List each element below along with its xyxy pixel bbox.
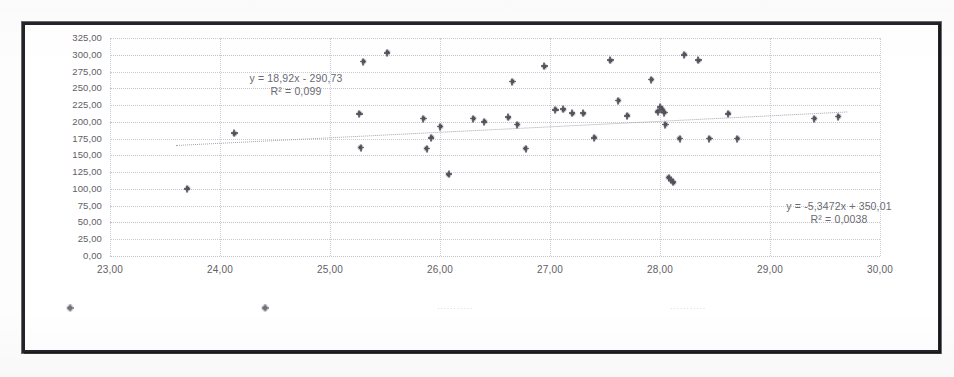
legend-text-2: ··········· bbox=[670, 304, 706, 313]
legend-text-1: ··········· bbox=[437, 304, 473, 313]
chart-legend: ······················ bbox=[0, 0, 954, 377]
legend-entry-1-marker[interactable] bbox=[66, 304, 74, 312]
chart-frame-border: 0,0025,0050,0075,00100,00125,00150,00175… bbox=[22, 22, 941, 353]
legend-entry-2-marker[interactable] bbox=[261, 304, 269, 312]
scan-page: 0,0025,0050,0075,00100,00125,00150,00175… bbox=[0, 0, 954, 377]
